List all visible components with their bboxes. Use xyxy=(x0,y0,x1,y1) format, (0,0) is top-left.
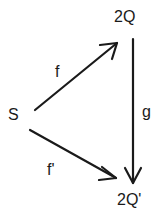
label-f-prime: f' xyxy=(47,162,55,178)
node-s: S xyxy=(8,107,19,123)
node-2q-prime: 2Q' xyxy=(117,192,141,208)
node-2q: 2Q xyxy=(114,9,135,25)
arrow-f xyxy=(35,43,117,110)
arrow-f-prime xyxy=(30,130,116,178)
label-f: f xyxy=(55,64,59,80)
diagram-canvas xyxy=(0,0,157,215)
label-g: g xyxy=(142,104,151,120)
